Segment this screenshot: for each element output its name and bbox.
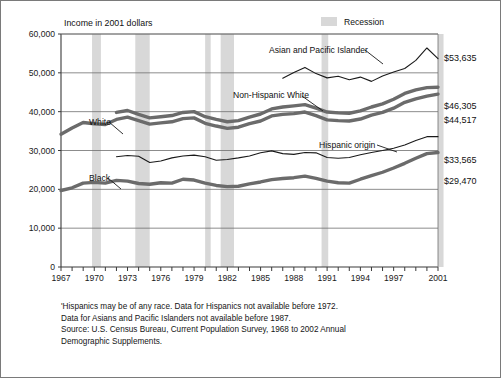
x-tick-label-1982: 1982	[218, 273, 237, 283]
footnote-line-3: Source: U.S. Census Bureau, Current Popu…	[61, 324, 481, 336]
series-annotation-hispanic-origin: Hispanic origin	[319, 140, 376, 150]
leader-line-4	[365, 50, 383, 64]
series-annotation-black: Black	[89, 173, 111, 183]
footnote-line-4: Demographic Supplements.	[61, 336, 481, 348]
end-value-white: $44,517	[444, 115, 477, 125]
x-tick-label-1976: 1976	[151, 273, 170, 283]
x-tick-label-1997: 1997	[384, 273, 403, 283]
end-value-black: $29,470	[444, 176, 477, 186]
y-tick-label-30000: 30,000	[29, 146, 56, 156]
y-tick-label-60000: 60,000	[29, 29, 56, 39]
x-tick-label-1970: 1970	[85, 273, 104, 283]
x-tick-label-1979: 1979	[184, 273, 203, 283]
x-tick-label-1994: 1994	[351, 273, 370, 283]
x-tick-label-1967: 1967	[51, 273, 70, 283]
y-tick-label-20000: 20,000	[29, 184, 56, 194]
end-value-asian-pacific-islander: $53,635	[444, 53, 477, 63]
footnote-line-2: Data for Asians and Pacific Islanders no…	[61, 313, 481, 325]
legend-recession-label: Recession	[344, 17, 384, 27]
end-value-non-hispanic-white: $46,305	[444, 101, 477, 111]
y-tick-label-50000: 50,000	[29, 68, 56, 78]
x-tick-label-2001: 2001	[428, 273, 447, 283]
legend-recession-swatch	[321, 17, 337, 26]
footnote-line-1: 'Hispanics may be of any race. Data for …	[61, 301, 481, 313]
chart-figure: 010,00020,00030,00040,00050,00060,000196…	[0, 0, 501, 378]
series-annotation-asian-and-pacific-islander: Asian and Pacific Islander	[269, 45, 368, 55]
leader-line-0	[109, 122, 123, 134]
series-annotation-non-hispanic-white: Non-Hispanic White	[233, 90, 309, 100]
axis-title: Income in 2001 dollars	[64, 18, 153, 28]
series-annotation-white: White	[89, 117, 111, 127]
x-tick-label-1985: 1985	[251, 273, 270, 283]
y-tick-label-0: 0	[50, 262, 55, 272]
x-tick-label-1973: 1973	[118, 273, 137, 283]
recession-band-5	[438, 34, 444, 267]
series-line-black	[61, 153, 438, 191]
y-tick-label-40000: 40,000	[29, 107, 56, 117]
x-tick-label-1991: 1991	[318, 273, 337, 283]
series-line-white	[61, 94, 438, 134]
footnote-block: 'Hispanics may be of any race. Data for …	[61, 301, 481, 347]
end-value-hispanic-origin: $33,565	[444, 155, 477, 165]
y-tick-label-10000: 10,000	[29, 223, 56, 233]
x-tick-label-1988: 1988	[284, 273, 303, 283]
